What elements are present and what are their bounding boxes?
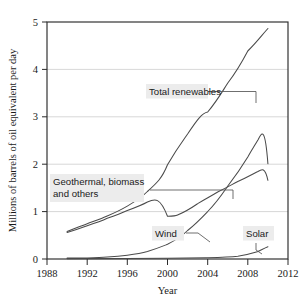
y-tick-0: 0: [33, 254, 38, 265]
x-tick-2012: 2012: [278, 268, 299, 279]
x-tick-1992: 1992: [77, 268, 98, 279]
x-tick-2008: 2008: [237, 268, 258, 279]
annotation-label-geothermal-line2: and others: [53, 188, 99, 199]
renewable-energy-line-chart: 0 1 2 3 4 5 1988 1992 1996 2000 2004 200…: [0, 0, 305, 306]
y-axis-ticks: [42, 22, 47, 259]
x-axis-title: Year: [158, 285, 178, 296]
y-tick-1: 1: [33, 206, 38, 217]
annotation-wind: Wind: [152, 226, 184, 241]
annotation-label-solar: Solar: [246, 228, 269, 239]
leader-wind: [186, 233, 210, 242]
leader-geothermal: [150, 190, 233, 199]
annotation-label-wind: Wind: [155, 228, 177, 239]
x-axis-ticks: [47, 259, 288, 265]
annotation-label-geothermal-line1: Geothermal, biomass: [53, 176, 144, 187]
series-lines: [67, 29, 268, 259]
annotation-geothermal: Geothermal, biomass and others: [50, 174, 144, 202]
y-axis-tick-labels: 0 1 2 3 4 5: [33, 17, 39, 265]
annotation-total-renewables: Total renewables: [146, 84, 221, 99]
y-tick-2: 2: [33, 159, 38, 170]
x-tick-1988: 1988: [37, 268, 58, 279]
y-tick-4: 4: [33, 64, 39, 75]
series-solar: [67, 247, 268, 259]
x-axis-tick-labels: 1988 1992 1996 2000 2004 2008 2012: [37, 268, 299, 279]
chart-figure: 0 1 2 3 4 5 1988 1992 1996 2000 2004 200…: [0, 0, 305, 306]
x-tick-1996: 1996: [117, 268, 138, 279]
plot-frame: [47, 22, 288, 259]
y-tick-5: 5: [33, 17, 38, 28]
annotation-solar: Solar: [243, 226, 274, 241]
y-tick-3: 3: [33, 111, 38, 122]
y-axis-title: Millions of barrels of oil equivalent pe…: [7, 48, 18, 232]
annotation-label-total-renewables: Total renewables: [149, 86, 221, 97]
x-tick-2000: 2000: [157, 268, 178, 279]
x-tick-2004: 2004: [197, 268, 219, 279]
